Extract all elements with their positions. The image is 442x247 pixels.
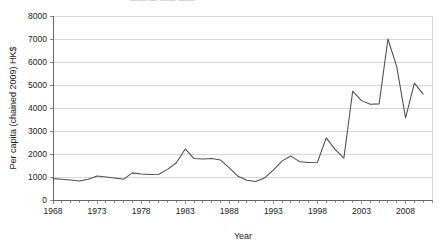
x-axis-title: Year: [234, 231, 252, 241]
y-tick-label-6000: 6000: [28, 57, 47, 67]
x-tick-label-2008: 2008: [396, 206, 415, 216]
y-tick-label-2000: 2000: [28, 149, 47, 159]
y-tick-label-8000: 8000: [28, 11, 47, 21]
y-tick-label-0: 0: [42, 195, 47, 205]
x-tick-label-1998: 1998: [308, 206, 327, 216]
y-axis-tick-labels: 010002000300040005000600070008000: [28, 11, 47, 205]
y-tick-label-3000: 3000: [28, 126, 47, 136]
x-axis-ticks-group: [53, 200, 432, 204]
x-tick-label-1973: 1973: [88, 206, 107, 216]
line-chart: 010002000300040005000600070008000 196819…: [0, 0, 442, 247]
gridlines-group: [53, 16, 432, 200]
y-tick-label-4000: 4000: [28, 103, 47, 113]
y-tick-label-5000: 5000: [28, 80, 47, 90]
y-tick-label-1000: 1000: [28, 172, 47, 182]
y-tick-label-7000: 7000: [28, 34, 47, 44]
x-tick-label-1968: 1968: [44, 206, 63, 216]
x-tick-label-1993: 1993: [264, 206, 283, 216]
series-line-per-capita: [53, 39, 423, 182]
x-tick-label-1978: 1978: [132, 206, 151, 216]
chart-container: —— — —— —— 01000200030004000500060007000…: [0, 0, 442, 247]
y-axis-title: Per capita (chained 2009) HK$: [8, 46, 18, 169]
x-tick-label-1983: 1983: [176, 206, 195, 216]
x-tick-label-1988: 1988: [220, 206, 239, 216]
x-tick-label-2003: 2003: [352, 206, 371, 216]
x-axis-tick-labels: 196819731978198319881993199820032008: [44, 206, 416, 216]
data-series-group: [53, 39, 423, 182]
